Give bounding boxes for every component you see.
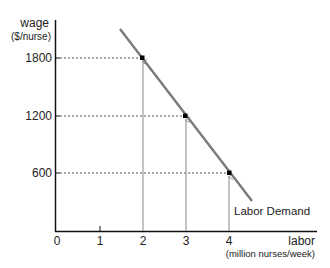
y-axis-unit: ($/nurse) — [11, 31, 51, 42]
x-tick-label-1: 1 — [97, 234, 104, 248]
labor-demand-chart: wage ($/nurse) 1800 1200 600 0 1 2 3 4 l… — [0, 0, 330, 268]
chart-container: wage ($/nurse) 1800 1200 600 0 1 2 3 4 l… — [0, 0, 330, 268]
x-tick-label-0: 0 — [54, 234, 61, 248]
point-3-1200 — [183, 114, 188, 119]
labor-demand-label: Labor Demand — [234, 205, 310, 217]
point-4-600 — [227, 171, 232, 176]
point-2-1800 — [140, 56, 145, 61]
x-tick-label-3: 3 — [183, 234, 190, 248]
y-tick-label-1800: 1800 — [25, 51, 52, 65]
x-axis-unit: (million nurses/week) — [226, 248, 315, 259]
y-tick-label-600: 600 — [32, 166, 52, 180]
x-tick-label-4: 4 — [226, 234, 233, 248]
x-tick-label-2: 2 — [140, 234, 147, 248]
y-axis-label: wage — [19, 16, 49, 30]
x-axis-label: labor — [288, 234, 315, 248]
y-tick-label-1200: 1200 — [25, 109, 52, 123]
